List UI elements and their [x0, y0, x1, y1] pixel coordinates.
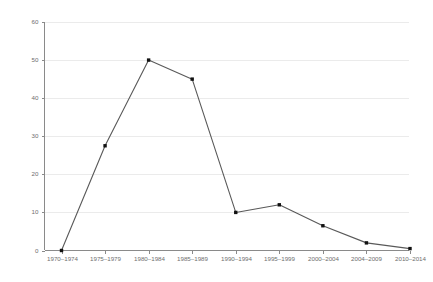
y-tick-label: 10 — [32, 208, 39, 215]
data-point-marker — [365, 241, 368, 244]
y-tick-label: 50 — [32, 56, 39, 63]
y-tick-label: 20 — [32, 170, 39, 177]
x-tick-label: 1980–1984 — [134, 255, 166, 262]
y-tick-label: 0 — [35, 247, 39, 254]
data-point-marker — [408, 247, 411, 250]
y-tick-label: 60 — [32, 18, 39, 25]
data-point-marker — [321, 224, 324, 227]
x-tick-label: 1975–1979 — [90, 255, 122, 262]
x-tick-label: 1990–1994 — [221, 255, 253, 262]
data-point-marker — [103, 144, 106, 147]
data-point-marker — [234, 211, 237, 214]
series-line-path — [62, 60, 411, 250]
x-tick-label: 1995–1999 — [264, 255, 296, 262]
x-tick-label: 2010–2014 — [395, 255, 427, 262]
x-tick-label: 2004–2009 — [351, 255, 383, 262]
data-point-marker — [147, 58, 150, 61]
x-tick-label: 1970–1974 — [47, 255, 79, 262]
data-point-marker — [278, 203, 281, 206]
x-tick-labels-group: 1970–19741975–19791980–19841985–19891990… — [47, 255, 427, 262]
y-tick-labels-group: 0102030405060 — [32, 18, 39, 254]
line-chart-figure: 0102030405060 1970–19741975–19791980–198… — [0, 0, 433, 282]
data-point-marker — [60, 249, 63, 252]
x-tick-label: 2000–2004 — [308, 255, 340, 262]
data-series-group — [60, 58, 412, 252]
x-tick-label: 1985–1989 — [177, 255, 209, 262]
chart-plot-svg: 0102030405060 1970–19741975–19791980–198… — [0, 0, 433, 282]
y-tick-label: 30 — [32, 132, 39, 139]
y-tick-label: 40 — [32, 94, 39, 101]
series-markers-group — [60, 58, 412, 252]
data-point-marker — [190, 77, 193, 80]
